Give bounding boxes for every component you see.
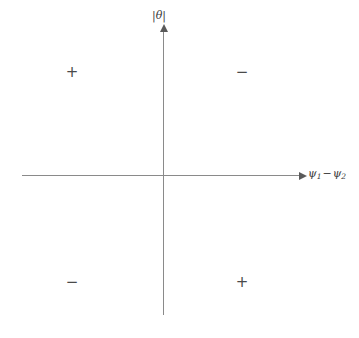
x-axis-label-operator: − (321, 167, 332, 180)
x-axis-label-subscript-2: 2 (341, 172, 346, 181)
x-axis-label-psi1: ψ (308, 167, 317, 180)
y-axis-label: |θ| (152, 10, 166, 21)
y-axis-line (163, 30, 164, 315)
x-axis-arrowhead-icon (299, 172, 307, 180)
x-axis-label-psi2: ψ (333, 167, 342, 180)
quadrant-sign-figure: |θ| ψ1−ψ2 + − − + (0, 0, 359, 338)
y-axis-arrowhead-icon (160, 24, 168, 32)
quadrant-sign-upper-left: + (63, 65, 81, 80)
quadrant-sign-lower-left: − (63, 275, 81, 290)
x-axis-line (22, 175, 301, 176)
x-axis-label-subscript-1: 1 (317, 172, 322, 181)
quadrant-sign-lower-right: + (233, 275, 251, 290)
quadrant-sign-upper-right: − (233, 65, 251, 80)
x-axis-label: ψ1−ψ2 (308, 168, 346, 179)
